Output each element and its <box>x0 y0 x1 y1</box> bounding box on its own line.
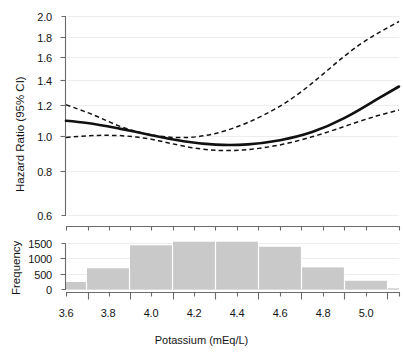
x-tick-label-3-6: 3.6 <box>50 308 82 319</box>
freq-tick-label-500: 500 <box>20 270 52 281</box>
freq-tick-label-0: 0 <box>20 285 52 296</box>
y-tick-label-2-0: 2.0 <box>24 12 52 23</box>
y-tick-label-1-6: 1.6 <box>24 53 52 64</box>
freq-tick-label-1000: 1000 <box>20 254 52 265</box>
histogram-bar <box>388 288 399 289</box>
histogram-bar <box>216 242 258 290</box>
histogram-bar <box>66 282 86 290</box>
histogram-bars <box>66 242 399 290</box>
histogram-bar <box>345 281 387 290</box>
y-tick-label-1-4: 1.4 <box>24 76 52 87</box>
hazard-panel-y-axis <box>61 17 66 216</box>
upper-confidence-band <box>66 22 399 138</box>
y-tick-label-0-8: 0.8 <box>24 167 52 178</box>
x-tick-label-4-2: 4.2 <box>178 308 210 319</box>
y-tick-label-1-8: 1.8 <box>24 33 52 44</box>
histogram-panel-gridlines <box>68 244 399 290</box>
freq-tick-label-1500: 1500 <box>20 239 52 250</box>
histogram-bar <box>87 268 129 289</box>
histogram-bar <box>130 245 172 289</box>
y-tick-label-1-2: 1.2 <box>24 101 52 112</box>
x-tick-label-5-0: 5.0 <box>350 308 382 319</box>
histogram-panel-y-axis <box>61 244 66 290</box>
panel-divider-tick-rail <box>67 227 400 231</box>
y-tick-label-0-6: 0.6 <box>24 211 52 222</box>
chart-canvas <box>0 0 403 357</box>
hazard-ratio-curve <box>66 87 399 145</box>
histogram-bar <box>173 242 215 290</box>
histogram-bar <box>302 267 344 289</box>
x-axis-title-potassium: Potassium (mEq/L) <box>0 334 403 346</box>
histogram-bar <box>259 247 301 290</box>
x-tick-label-4-8: 4.8 <box>307 308 339 319</box>
x-axis-bottom <box>67 293 400 300</box>
x-tick-label-4-4: 4.4 <box>221 308 253 319</box>
lower-confidence-band <box>66 110 399 151</box>
y-tick-label-1-0: 1.0 <box>24 132 52 143</box>
hazard-panel-gridlines <box>68 17 399 216</box>
x-tick-label-4-6: 4.6 <box>264 308 296 319</box>
x-tick-label-4-0: 4.0 <box>135 308 167 319</box>
histogram-bar-edges <box>87 242 388 290</box>
figure-root: Hazard Ratio (95% CI) Frequency Potassiu… <box>0 0 403 357</box>
x-tick-label-3-8: 3.8 <box>92 308 124 319</box>
